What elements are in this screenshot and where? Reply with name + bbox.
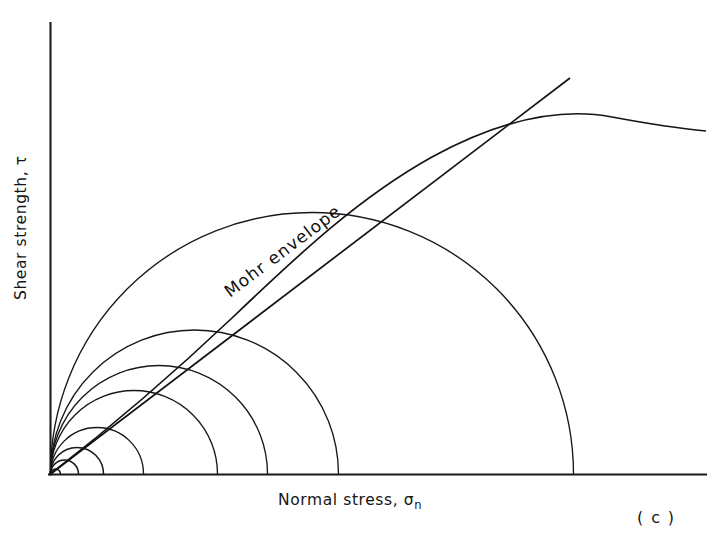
x-axis-label: Normal stress, σn — [278, 491, 422, 512]
mohr-envelope-curve — [51, 114, 707, 474]
tau-symbol: τ — [12, 155, 30, 165]
mohr-envelope-diagram: Mohr envelope Shear strength, τ Normal s… — [0, 0, 722, 546]
envelope-label-group: Mohr envelope — [220, 201, 344, 302]
figure-canvas: Mohr envelope Shear strength, τ Normal s… — [0, 0, 722, 546]
panel-label: ( c ) — [637, 508, 675, 527]
axes-group — [49, 23, 706, 475]
mohr-circles-group — [51, 212, 574, 474]
tangent-line — [51, 78, 571, 474]
envelope-label: Mohr envelope — [220, 201, 344, 302]
sigma-subscript: n — [414, 498, 422, 512]
sigma-symbol: σ — [404, 491, 414, 509]
mohr-circle-7 — [51, 330, 339, 474]
x-axis-label-group: Normal stress, σn — [278, 491, 422, 512]
y-axis-label-text: Shear strength, — [12, 165, 30, 300]
y-axis-label-group: Shear strength, τ — [12, 155, 30, 300]
mohr-circle-8 — [51, 212, 574, 474]
y-axis-label: Shear strength, τ — [12, 155, 30, 300]
x-axis-label-text: Normal stress, — [278, 491, 404, 509]
